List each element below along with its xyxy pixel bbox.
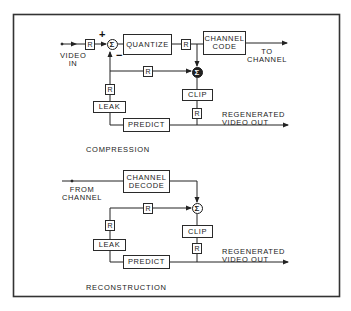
summing-junction-icon-2: Σ — [192, 67, 203, 78]
minus-sign: − — [116, 50, 122, 60]
reconstruction-title: RECONSTRUCTION — [86, 283, 167, 292]
clip-block: CLIP — [182, 89, 213, 101]
r-block-recon-leak: R — [105, 220, 115, 231]
regenerated-video-out-label: REGENERATED VIDEO OUT — [222, 111, 285, 127]
to-channel-label: TO CHANNEL — [246, 48, 288, 64]
plus-sign: + — [99, 29, 105, 39]
recon-predict-block: PREDICT — [123, 255, 170, 269]
channel-code-block: CHANNEL CODE — [203, 31, 246, 55]
video-in-label-line2: IN — [60, 60, 86, 68]
video-in-label: VIDEO IN — [60, 52, 86, 68]
predict-block: PREDICT — [123, 118, 170, 132]
channel-decode-line2: DECODE — [129, 182, 165, 190]
r-block-recon-feedback: R — [143, 203, 153, 214]
from-channel-line2: CHANNEL — [62, 194, 102, 202]
recon-leak-block: LEAK — [93, 239, 126, 251]
summing-junction-icon-3: Σ — [192, 203, 203, 214]
channel-decode-block: CHANNEL DECODE — [123, 170, 170, 193]
r-block-clip: R — [192, 108, 202, 119]
recon-clip-block: CLIP — [182, 225, 213, 238]
recon-video-out-line2: VIDEO OUT — [222, 256, 285, 264]
channel-code-line2: CODE — [212, 43, 236, 51]
r-block-leak: R — [105, 84, 115, 95]
to-channel-line2: CHANNEL — [246, 56, 288, 64]
summing-junction-icon: Σ — [107, 39, 118, 50]
r-block-feedback: R — [143, 66, 153, 77]
quantize-block: QUANTIZE — [123, 34, 172, 55]
recon-regenerated-video-out-label: REGENERATED VIDEO OUT — [222, 248, 285, 264]
r-block-recon-clip: R — [192, 243, 202, 254]
r-block-input: R — [85, 39, 95, 50]
compression-title: COMPRESSION — [86, 145, 150, 154]
from-channel-label: FROM CHANNEL — [62, 186, 102, 202]
video-out-line2: VIDEO OUT — [222, 119, 285, 127]
r-block-after-quantize: R — [181, 39, 191, 50]
diagram-wires — [0, 0, 351, 311]
leak-block: LEAK — [93, 101, 126, 113]
